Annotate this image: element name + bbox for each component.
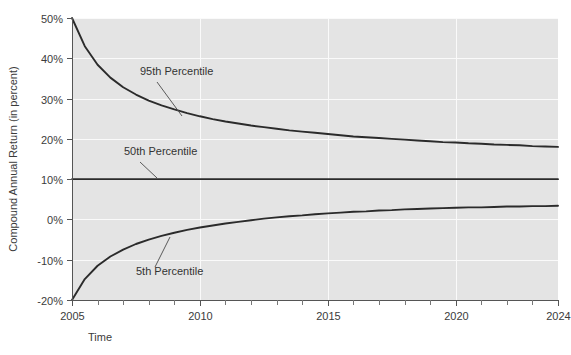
y-tick-label: 30% xyxy=(41,94,63,106)
x-axis-title: Time xyxy=(88,331,112,343)
x-tick-label: 2005 xyxy=(60,310,84,322)
annotation-label-2: 5th Percentile xyxy=(136,265,203,277)
x-tick-label: 2015 xyxy=(316,310,340,322)
y-tick-label: 50% xyxy=(41,13,63,25)
chart-figure: -20%-10%0%10%20%30%40%50% 20052010201520… xyxy=(0,0,571,355)
y-tick-label: 10% xyxy=(41,174,63,186)
y-tick-label: 0% xyxy=(47,214,63,226)
y-tick-label: -20% xyxy=(37,295,63,307)
y-axis-title: Compound Annual Return (in percent) xyxy=(7,66,19,251)
y-tick-label: 20% xyxy=(41,134,63,146)
plot-area-background xyxy=(72,18,558,300)
y-tick-label: -10% xyxy=(37,255,63,267)
x-tick-label: 2024 xyxy=(546,310,570,322)
annotation-label-1: 50th Percentile xyxy=(124,145,197,157)
x-tick-label: 2020 xyxy=(444,310,468,322)
percentile-return-chart: -20%-10%0%10%20%30%40%50% 20052010201520… xyxy=(0,0,571,355)
y-tick-label: 40% xyxy=(41,53,63,65)
annotation-label-0: 95th Percentile xyxy=(140,65,213,77)
x-tick-label: 2010 xyxy=(188,310,212,322)
